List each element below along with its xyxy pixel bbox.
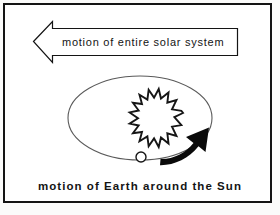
solar-motion-label: motion of entire solar system (62, 36, 224, 48)
figure-root: motion of entire solar system motion of … (0, 0, 280, 215)
solar-system-motion-arrow: motion of entire solar system (34, 22, 238, 63)
sun-jagged-ring-path (130, 89, 183, 147)
solar-system-diagram: motion of entire solar system motion of … (0, 0, 280, 215)
earth-icon (136, 152, 146, 162)
sun-icon (130, 89, 183, 147)
earth-motion-caption: motion of Earth around the Sun (38, 180, 242, 192)
